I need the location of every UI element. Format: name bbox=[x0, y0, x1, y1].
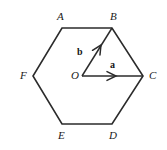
vector-b-shaft bbox=[82, 28, 112, 76]
vector-a bbox=[82, 72, 143, 81]
vertex-label-a: A bbox=[57, 11, 64, 22]
centre-label-o: O bbox=[71, 70, 79, 81]
vector-label-b: b bbox=[77, 47, 83, 57]
vertex-label-e: E bbox=[58, 130, 65, 141]
vertex-label-d: D bbox=[109, 130, 117, 141]
vertex-label-b: B bbox=[110, 11, 117, 22]
vector-label-a: a bbox=[110, 60, 115, 70]
geometry-figure: A B C D E F O a b bbox=[0, 0, 167, 150]
vector-b bbox=[82, 28, 112, 76]
vertex-label-f: F bbox=[20, 70, 27, 81]
vertex-label-c: C bbox=[149, 70, 156, 81]
